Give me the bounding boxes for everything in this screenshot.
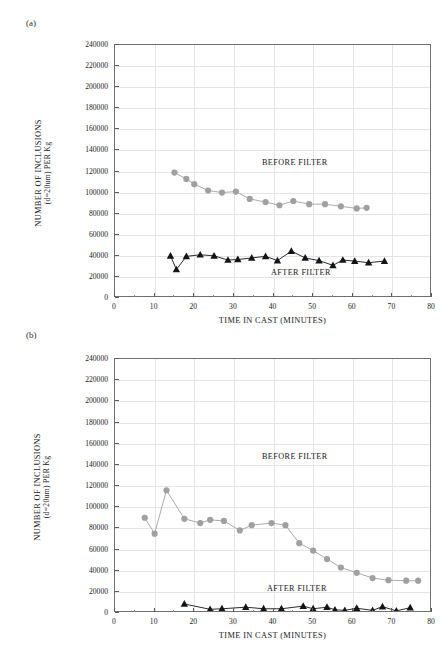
x-tick-label: 50 bbox=[308, 302, 316, 311]
x-tick-mark bbox=[273, 293, 274, 297]
x-tick-mark bbox=[431, 608, 432, 612]
x-tick-mark-minor bbox=[411, 295, 412, 298]
data-point-marker bbox=[221, 518, 227, 524]
data-point-marker bbox=[183, 176, 189, 182]
y-tick-mark bbox=[115, 570, 119, 571]
y-tick-label: 140000 bbox=[0, 145, 108, 154]
y-tick-mark bbox=[115, 213, 119, 214]
y-tick-label: 40000 bbox=[0, 565, 108, 574]
y-tick-mark bbox=[115, 379, 119, 380]
data-point-marker bbox=[385, 577, 391, 583]
x-tick-label: 20 bbox=[189, 617, 197, 626]
data-point-marker bbox=[167, 252, 174, 259]
y-axis-title: NUMBER OF INCLUSIONS(d=20um) PER Kg bbox=[33, 46, 51, 299]
y-tick-label: 60000 bbox=[0, 229, 108, 238]
x-tick-mark bbox=[154, 293, 155, 297]
y-tick-mark bbox=[115, 527, 119, 528]
y-tick-label: 200000 bbox=[0, 82, 108, 91]
data-point-marker bbox=[163, 487, 169, 493]
x-tick-mark bbox=[352, 608, 353, 612]
data-point-marker bbox=[142, 515, 148, 521]
x-tick-mark bbox=[273, 608, 274, 612]
data-point-marker bbox=[381, 257, 388, 264]
data-point-marker bbox=[369, 575, 375, 581]
x-tick-mark-minor bbox=[253, 295, 254, 298]
y-axis-title-line2: (d=20um) PER Kg bbox=[42, 456, 51, 519]
y-axis-title-line1: NUMBER OF INCLUSIONS bbox=[33, 119, 42, 227]
data-point-marker bbox=[338, 564, 344, 570]
y-tick-mark bbox=[115, 44, 119, 45]
annotation-before-filter: BEFORE FILTER bbox=[262, 158, 328, 167]
y-tick-mark bbox=[115, 591, 119, 592]
x-tick-label: 40 bbox=[269, 617, 277, 626]
y-axis-title: NUMBER OF INCLUSIONS(d=20um) PER Kg bbox=[33, 360, 51, 614]
y-tick-mark bbox=[115, 422, 119, 423]
plot-inner bbox=[115, 359, 430, 611]
data-point-marker bbox=[296, 540, 302, 546]
plot-area-b bbox=[114, 358, 431, 612]
x-tick-mark bbox=[193, 608, 194, 612]
annotation-before-filter: BEFORE FILTER bbox=[262, 452, 328, 461]
data-point-marker bbox=[310, 547, 316, 553]
x-tick-label: 80 bbox=[427, 302, 435, 311]
data-point-marker bbox=[181, 516, 187, 522]
data-point-marker bbox=[353, 604, 360, 611]
panel-label-b: (b) bbox=[26, 330, 37, 340]
data-point-marker bbox=[152, 531, 158, 537]
y-tick-label: 40000 bbox=[0, 250, 108, 259]
x-tick-mark bbox=[114, 293, 115, 297]
data-point-marker bbox=[354, 570, 360, 576]
series-layer bbox=[115, 359, 430, 611]
series-before-filter bbox=[171, 169, 369, 211]
y-tick-label: 0 bbox=[0, 293, 108, 302]
annotation-after-filter: AFTER FILTER bbox=[267, 584, 327, 593]
data-point-marker bbox=[339, 256, 346, 263]
series-line bbox=[174, 173, 366, 209]
x-tick-label: 30 bbox=[229, 302, 237, 311]
y-tick-label: 160000 bbox=[0, 124, 108, 133]
x-tick-mark-minor bbox=[332, 610, 333, 613]
y-tick-label: 120000 bbox=[0, 166, 108, 175]
data-point-marker bbox=[278, 605, 285, 611]
y-tick-label: 100000 bbox=[0, 502, 108, 511]
data-point-marker bbox=[197, 520, 203, 526]
y-tick-mark bbox=[115, 506, 119, 507]
y-tick-label: 200000 bbox=[0, 396, 108, 405]
y-tick-mark bbox=[115, 149, 119, 150]
y-tick-mark bbox=[115, 549, 119, 550]
panel-label-a: (a) bbox=[26, 18, 36, 28]
x-tick-mark bbox=[114, 608, 115, 612]
y-tick-mark bbox=[115, 297, 119, 298]
x-tick-label: 60 bbox=[348, 617, 356, 626]
y-tick-mark bbox=[115, 171, 119, 172]
x-tick-mark bbox=[312, 608, 313, 612]
series-line bbox=[184, 604, 410, 611]
plot-inner bbox=[115, 45, 430, 296]
data-point-marker bbox=[249, 522, 255, 528]
figure-panel-a: (a) 020000400006000080000100000120000140… bbox=[0, 18, 446, 338]
data-point-marker bbox=[242, 603, 249, 610]
y-tick-mark bbox=[115, 234, 119, 235]
data-point-marker bbox=[300, 602, 307, 609]
y-tick-label: 80000 bbox=[0, 523, 108, 532]
y-tick-label: 180000 bbox=[0, 103, 108, 112]
x-tick-mark-minor bbox=[253, 610, 254, 613]
y-tick-mark bbox=[115, 443, 119, 444]
series-line bbox=[145, 490, 418, 580]
x-tick-mark-minor bbox=[173, 610, 174, 613]
y-tick-label: 100000 bbox=[0, 187, 108, 196]
series-layer bbox=[115, 45, 430, 296]
y-tick-mark bbox=[115, 276, 119, 277]
x-tick-label: 70 bbox=[388, 302, 396, 311]
y-tick-label: 80000 bbox=[0, 208, 108, 217]
y-tick-label: 120000 bbox=[0, 481, 108, 490]
y-tick-label: 60000 bbox=[0, 544, 108, 553]
y-tick-mark bbox=[115, 612, 119, 613]
x-tick-mark bbox=[431, 293, 432, 297]
y-tick-label: 0 bbox=[0, 608, 108, 617]
y-tick-label: 180000 bbox=[0, 417, 108, 426]
series-before-filter bbox=[142, 487, 422, 584]
data-point-marker bbox=[415, 578, 421, 584]
x-tick-label: 70 bbox=[388, 617, 396, 626]
data-point-marker bbox=[196, 251, 203, 258]
